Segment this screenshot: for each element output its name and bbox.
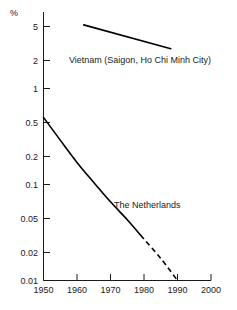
series-line-vietnam [84, 25, 171, 49]
x-tick-label-1960: 1960 [67, 285, 87, 295]
y-tick-label-1: 1 [33, 84, 38, 94]
x-tick-label-1980: 1980 [134, 285, 154, 295]
x-tick-label-1950: 1950 [33, 285, 53, 295]
y-tick-label-0-02: 0.02 [20, 248, 38, 258]
y-tick-label-0-5: 0.5 [25, 118, 38, 128]
y-tick-label-0-1: 0.1 [25, 180, 38, 190]
chart-container: % 5 2 1 0.5 0.2 0.1 0.05 0.02 0.01 [0, 0, 237, 310]
y-tick-label-5: 5 [33, 22, 38, 32]
log-line-chart: % 5 2 1 0.5 0.2 0.1 0.05 0.02 0.01 [0, 0, 237, 310]
x-tick-label-1970: 1970 [100, 285, 120, 295]
series-line-netherlands-projection [141, 235, 178, 280]
y-tick-label-2: 2 [33, 56, 38, 66]
annotation-netherlands: The Netherlands [114, 200, 181, 210]
annotation-vietnam: Vietnam (Saigon, Ho Chi Minh City) [69, 55, 211, 65]
x-tick-label-2000: 2000 [201, 285, 221, 295]
y-axis-unit-label: % [10, 8, 18, 18]
y-axis-ticks [44, 27, 51, 281]
x-tick-label-1990: 1990 [167, 285, 187, 295]
series-line-netherlands [44, 117, 141, 235]
x-axis-ticks [44, 274, 212, 281]
y-tick-label-0-2: 0.2 [25, 152, 38, 162]
y-tick-label-0-05: 0.05 [20, 214, 38, 224]
